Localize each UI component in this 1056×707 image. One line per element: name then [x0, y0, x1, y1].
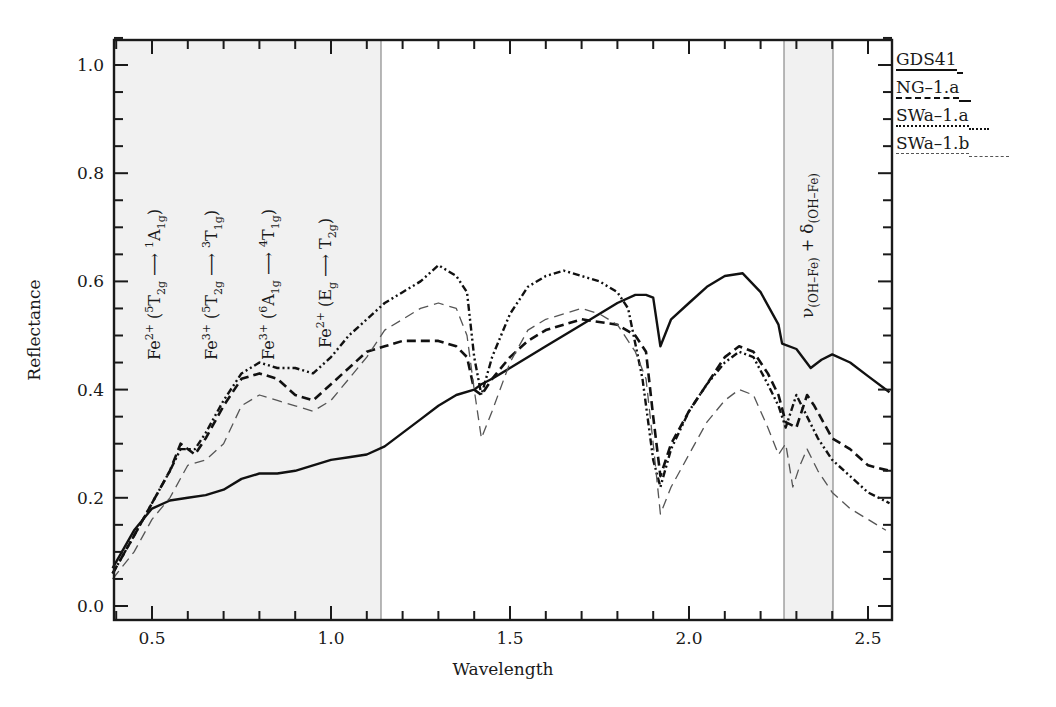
y-tick-label: 0.8 — [77, 163, 104, 183]
legend-item-ng-1a: NG–1.a — [896, 74, 1009, 102]
y-tick-label: 0.4 — [77, 380, 104, 400]
legend: GDS41 NG–1.a SWa–1.a SWa–1.b — [896, 46, 1009, 157]
y-axis-title: Reflectance — [24, 279, 44, 380]
x-tick-label: 2.5 — [854, 628, 881, 648]
y-tick-label: 0.6 — [77, 271, 104, 291]
legend-label: SWa–1.b — [896, 133, 969, 154]
y-tick-labels: 0.0 0.2 0.4 0.6 0.8 1.0 — [77, 55, 104, 616]
y-tick-label: 1.0 — [77, 55, 104, 75]
y-tick-label: 0.0 — [77, 596, 104, 616]
y-tick-label: 0.2 — [77, 488, 104, 508]
legend-item-swa-1a: SWa–1.a — [896, 102, 1009, 130]
x-tick-label: 1.5 — [496, 628, 523, 648]
x-tick-labels: 0.5 1.0 1.5 2.0 2.5 — [138, 628, 881, 648]
legend-item-swa-1b: SWa–1.b — [896, 130, 1009, 157]
x-tick-label: 1.0 — [317, 628, 344, 648]
legend-label: GDS41 — [896, 49, 957, 71]
x-tick-label: 2.0 — [675, 628, 702, 648]
legend-label: SWa–1.a — [896, 105, 969, 127]
shaded-region-oh-fe — [784, 40, 833, 620]
legend-label: NG–1.a — [896, 77, 959, 99]
x-axis-title: Wavelength — [453, 659, 554, 679]
x-tick-label: 0.5 — [138, 628, 165, 648]
legend-item-gds41: GDS41 — [896, 46, 1009, 74]
